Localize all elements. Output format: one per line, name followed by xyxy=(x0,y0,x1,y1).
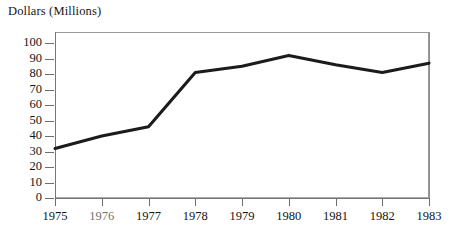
plot-area xyxy=(55,32,429,198)
y-axis-tick xyxy=(45,90,54,91)
y-axis-tick xyxy=(45,74,54,75)
y-axis-label: 50 xyxy=(2,114,42,126)
y-axis-tick xyxy=(45,167,54,168)
x-axis-tick xyxy=(289,198,290,206)
y-axis-tick xyxy=(45,136,54,137)
x-axis-tick xyxy=(242,198,243,206)
y-axis-label: 70 xyxy=(2,83,42,95)
x-axis-tick xyxy=(55,198,56,206)
y-axis-label: 30 xyxy=(2,145,42,157)
y-axis-label: 80 xyxy=(2,67,42,79)
y-axis-tick xyxy=(45,105,54,106)
y-axis-tick xyxy=(45,59,54,60)
x-axis-tick xyxy=(336,198,337,206)
x-axis-tick xyxy=(149,198,150,206)
y-axis-label: 20 xyxy=(2,160,42,172)
y-axis-tick xyxy=(45,43,54,44)
y-axis-tick xyxy=(45,183,54,184)
y-axis-label: 10 xyxy=(2,176,42,188)
x-axis-tick xyxy=(382,198,383,206)
y-axis-line xyxy=(55,32,56,199)
x-axis-tick xyxy=(429,198,430,206)
y-axis-title: Dollars (Millions) xyxy=(8,4,101,19)
y-axis-label: 90 xyxy=(2,52,42,64)
x-axis-label: 1983 xyxy=(401,209,457,223)
y-axis-label: 60 xyxy=(2,98,42,110)
y-axis-label: 40 xyxy=(2,129,42,141)
y-axis-label: 0 xyxy=(2,191,42,203)
x-axis-tick xyxy=(102,198,103,206)
plot-right-border xyxy=(429,32,430,199)
y-axis-label: 100 xyxy=(2,36,42,48)
y-axis-tick xyxy=(45,121,54,122)
y-axis-tick xyxy=(45,198,54,199)
x-axis-tick xyxy=(195,198,196,206)
y-axis-tick xyxy=(45,152,54,153)
line-chart: Dollars (Millions) 100908070605040302010… xyxy=(0,0,458,237)
